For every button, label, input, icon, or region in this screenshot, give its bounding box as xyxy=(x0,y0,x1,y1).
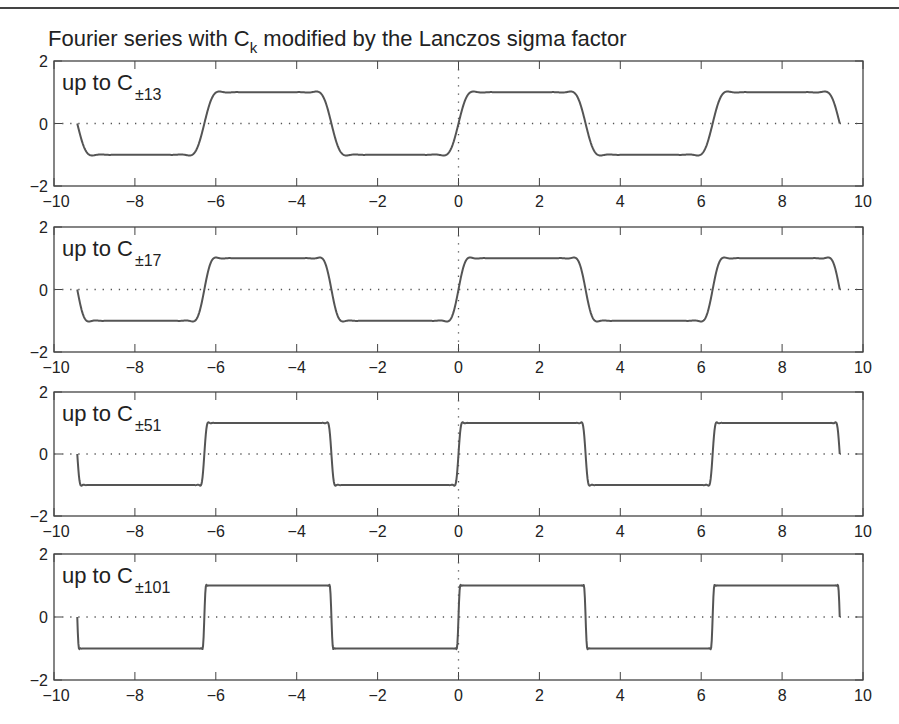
x-tick-label: 0 xyxy=(454,523,463,540)
x-tick-label: 6 xyxy=(697,687,706,704)
x-tick-label: 4 xyxy=(616,193,625,210)
x-tick-label: −2 xyxy=(368,359,386,376)
x-tick-label: −4 xyxy=(288,523,306,540)
y-tick-label: −2 xyxy=(30,672,48,689)
x-tick-label: −6 xyxy=(207,359,225,376)
y-tick-label: 2 xyxy=(39,546,48,563)
x-tick-label: 10 xyxy=(854,359,872,376)
x-tick-label: 2 xyxy=(535,359,544,376)
x-tick-label: −10 xyxy=(42,687,69,704)
x-tick-label: 8 xyxy=(778,687,787,704)
panel-label: up to C±17 xyxy=(62,236,162,269)
x-tick-label: −2 xyxy=(368,523,386,540)
panel-label-subscript: ±101 xyxy=(135,579,171,596)
x-tick-label: −8 xyxy=(126,687,144,704)
x-tick-label: −4 xyxy=(288,687,306,704)
y-tick-label: 2 xyxy=(39,384,48,401)
chart-canvas: −10−8−6−4−20246810−202up to C±13−10−8−6−… xyxy=(0,0,899,724)
fourier-curve xyxy=(77,422,839,485)
panel-label: up to C±51 xyxy=(62,401,162,434)
fourier-curve xyxy=(77,585,839,649)
y-tick-label: 0 xyxy=(39,282,48,299)
x-tick-label: 2 xyxy=(535,523,544,540)
x-tick-label: −4 xyxy=(288,193,306,210)
x-tick-label: 8 xyxy=(778,523,787,540)
x-tick-label: −6 xyxy=(207,523,225,540)
fourier-curve xyxy=(77,258,839,322)
x-tick-label: 0 xyxy=(454,359,463,376)
x-tick-label: 2 xyxy=(535,193,544,210)
y-tick-label: 0 xyxy=(39,116,48,133)
x-tick-label: 0 xyxy=(454,687,463,704)
x-tick-label: 8 xyxy=(778,359,787,376)
x-tick-label: 4 xyxy=(616,687,625,704)
x-tick-label: −8 xyxy=(126,193,144,210)
x-tick-label: −10 xyxy=(42,359,69,376)
y-tick-label: 0 xyxy=(39,446,48,463)
fourier-curve xyxy=(77,92,839,156)
x-tick-label: −8 xyxy=(126,359,144,376)
x-tick-label: −4 xyxy=(288,359,306,376)
subplot-3: −10−8−6−4−20246810−202up to C±51 xyxy=(30,384,872,540)
panel-label: up to C±101 xyxy=(62,563,171,596)
x-tick-label: −8 xyxy=(126,523,144,540)
subplot-1: −10−8−6−4−20246810−202up to C±13 xyxy=(30,53,872,210)
x-tick-label: 6 xyxy=(697,359,706,376)
x-tick-label: 4 xyxy=(616,523,625,540)
subplot-2: −10−8−6−4−20246810−202up to C±17 xyxy=(30,219,872,376)
y-tick-label: 2 xyxy=(39,219,48,236)
x-tick-label: −6 xyxy=(207,193,225,210)
x-tick-label: 10 xyxy=(854,193,872,210)
x-tick-label: 6 xyxy=(697,523,706,540)
x-tick-label: −2 xyxy=(368,193,386,210)
x-tick-label: 10 xyxy=(854,523,872,540)
panel-label-subscript: ±13 xyxy=(135,86,162,103)
x-tick-label: 0 xyxy=(454,193,463,210)
y-tick-label: −2 xyxy=(30,508,48,525)
subplot-4: −10−8−6−4−20246810−202up to C±101 xyxy=(30,546,872,704)
panel-label: up to C±13 xyxy=(62,70,162,103)
x-tick-label: −10 xyxy=(42,193,69,210)
x-tick-label: 10 xyxy=(854,687,872,704)
x-tick-label: 8 xyxy=(778,193,787,210)
x-tick-label: 2 xyxy=(535,687,544,704)
x-tick-label: 4 xyxy=(616,359,625,376)
y-tick-label: −2 xyxy=(30,344,48,361)
y-tick-label: 0 xyxy=(39,609,48,626)
y-tick-label: 2 xyxy=(39,53,48,70)
x-tick-label: −10 xyxy=(42,523,69,540)
x-tick-label: 6 xyxy=(697,193,706,210)
panel-label-subscript: ±17 xyxy=(135,252,162,269)
x-tick-label: −2 xyxy=(368,687,386,704)
panel-label-subscript: ±51 xyxy=(135,417,162,434)
x-tick-label: −6 xyxy=(207,687,225,704)
y-tick-label: −2 xyxy=(30,178,48,195)
